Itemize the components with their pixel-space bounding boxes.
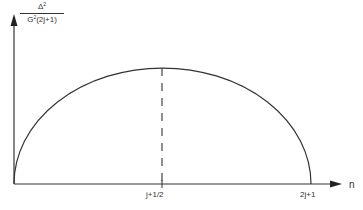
x-axis-label: n (349, 179, 355, 190)
diagram-canvas (0, 0, 363, 210)
x-tick-label-end: 2j+1 (300, 190, 315, 199)
x-tick-label-mid: j+1/2 (146, 190, 164, 199)
y-axis-label: Δ2 G2(2j+1) (20, 2, 64, 25)
y-label-numerator: Δ2 (20, 2, 64, 14)
y-label-denominator: G2(2j+1) (20, 14, 64, 25)
denominator-suffix: (2j+1) (36, 15, 57, 24)
y-axis-arrow-icon (11, 14, 18, 26)
x-axis-arrow-icon (330, 181, 342, 188)
numerator-exponent: 2 (43, 1, 46, 7)
